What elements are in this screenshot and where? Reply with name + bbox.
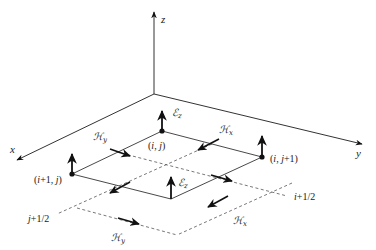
i-plus-three-halves-line — [77, 208, 177, 235]
cell-edge — [171, 157, 262, 199]
x-axis-label: x — [9, 143, 15, 155]
cell-edge — [72, 131, 162, 174]
hy-arrow — [110, 149, 130, 156]
hx-arrow — [208, 196, 228, 207]
node-label-ij: (i, j) — [148, 140, 165, 152]
z-axis-label: z — [160, 13, 166, 25]
grid-nodes — [69, 111, 264, 199]
node-label-ij1: (i, j+1) — [270, 153, 298, 165]
cell-edge — [162, 131, 262, 157]
grid-label: j+1/2 — [26, 213, 49, 224]
grid-label: i+1/2 — [294, 191, 315, 202]
hx-label: ℋx — [219, 124, 233, 137]
ez-label: ℰz — [172, 107, 182, 120]
j-plus-three-halves-line — [177, 183, 292, 235]
j-plus-half-line — [57, 144, 212, 214]
y-axis-label: y — [355, 147, 361, 159]
hx-arrow — [198, 139, 219, 150]
diagram-canvas: xyzℋyℋxℋyℋx(i, j)(i, j+1)(i+1, j)ℰzℰzj+1… — [0, 0, 376, 250]
grid-node-dot — [159, 128, 164, 133]
y-axis — [154, 94, 362, 144]
yee-cell-diagram: xyzℋyℋxℋyℋx(i, j)(i, j+1)(i+1, j)ℰzℰzj+1… — [0, 0, 376, 250]
hy-label: ℋy — [111, 232, 126, 245]
ez-label: ℰz — [178, 177, 188, 190]
hy-arrow — [118, 218, 139, 224]
node-label-i1j: (i+1, j) — [34, 174, 62, 186]
hx-label: ℋx — [233, 215, 247, 228]
grid-node-dot — [259, 154, 264, 159]
x-axis — [17, 94, 154, 160]
labels: xyzℋyℋxℋyℋx(i, j)(i, j+1)(i+1, j)ℰzℰzj+1… — [9, 13, 361, 245]
half-step-grid-lines — [57, 144, 292, 235]
hy-label: ℋy — [93, 131, 108, 144]
grid-node-dot — [69, 171, 74, 176]
